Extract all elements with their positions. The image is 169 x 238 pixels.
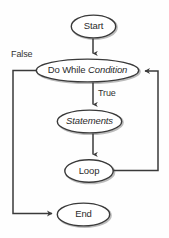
condition-node-label: Do While Condition xyxy=(28,64,148,75)
condition-node-label-prefix: Do While xyxy=(48,64,88,75)
start-node-label: Start xyxy=(64,20,124,31)
flowchart-canvas: Start Do While Condition Statements Loop… xyxy=(0,0,169,238)
loop-node-label-text: Loop xyxy=(79,165,100,176)
condition-node-label-variable: Condition xyxy=(88,64,127,75)
loop-node-label: Loop xyxy=(59,165,119,176)
statements-node-label: Statements xyxy=(55,115,125,126)
edge-condition-to-end xyxy=(13,71,52,214)
end-node-label: End xyxy=(54,208,114,219)
end-node-label-text: End xyxy=(75,208,92,219)
false-branch-label: False xyxy=(11,49,33,59)
start-node-label-text: Start xyxy=(84,20,104,31)
true-branch-label: True xyxy=(98,88,116,98)
statements-node-label-text: Statements xyxy=(66,115,113,126)
